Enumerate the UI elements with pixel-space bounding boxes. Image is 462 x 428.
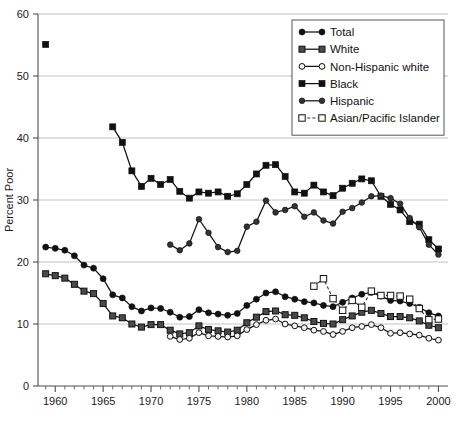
data-point-black-1973: [177, 188, 183, 194]
data-point-hispanic-2000: [436, 252, 442, 258]
data-point-hispanic-1996: [397, 201, 403, 207]
legend-marker-right-3: [319, 81, 325, 87]
legend-marker-left-1: [299, 46, 305, 52]
data-point-white-1967: [119, 315, 125, 321]
data-point-total-1960: [52, 245, 58, 251]
data-point-non-hispanic-white-1978: [225, 334, 231, 340]
data-point-hispanic-1974: [187, 241, 193, 247]
data-point-hispanic-1981: [254, 219, 260, 225]
data-point-black-1971: [158, 182, 164, 188]
x-tick-label-1995: 1995: [378, 395, 402, 407]
y-tick-label-20: 20: [17, 256, 29, 268]
data-point-total-1981: [253, 296, 259, 302]
data-point-total-1966: [110, 292, 116, 298]
data-point-non-hispanic-white-1994: [378, 325, 384, 331]
data-point-black-1995: [388, 201, 394, 207]
data-point-hispanic-1998: [416, 224, 422, 230]
data-point-white-1969: [138, 324, 144, 330]
data-point-total-1986: [301, 299, 307, 305]
data-point-total-1977: [215, 311, 221, 317]
data-point-total-1976: [206, 310, 212, 316]
data-point-white-1984: [282, 312, 288, 318]
data-point-total-1974: [186, 314, 192, 320]
data-point-black-1982: [263, 162, 269, 168]
data-point-hispanic-1982: [263, 198, 269, 204]
data-point-hispanic-1986: [302, 214, 308, 220]
chart-canvas: 196019651970197519801985199019952000 010…: [0, 0, 462, 428]
data-point-white-1961: [62, 275, 68, 281]
data-point-total-1965: [100, 276, 106, 282]
data-point-asian-pacific-islander-1999: [426, 316, 432, 322]
data-point-white-1966: [110, 313, 116, 319]
data-point-white-1998: [416, 318, 422, 324]
data-point-asian-pacific-islander-1988: [320, 276, 326, 282]
data-point-white-1964: [91, 291, 97, 297]
data-point-white-1965: [100, 301, 106, 307]
data-point-asian-pacific-islander-1997: [406, 296, 412, 302]
data-point-total-1985: [292, 296, 298, 302]
data-point-non-hispanic-white-1995: [388, 330, 394, 336]
data-point-white-1994: [378, 310, 384, 316]
data-point-total-1961: [62, 247, 68, 253]
data-point-white-1977: [215, 328, 221, 334]
data-point-white-1971: [158, 322, 164, 328]
legend-marker-right-1: [319, 46, 325, 52]
data-point-asian-pacific-islander-1996: [397, 293, 403, 299]
data-point-non-hispanic-white-1986: [301, 325, 307, 331]
data-point-white-1996: [397, 314, 403, 320]
data-point-black-1989: [330, 193, 336, 199]
legend-marker-right-2: [319, 64, 325, 70]
data-point-hispanic-1999: [426, 242, 432, 248]
data-point-non-hispanic-white-2000: [436, 337, 442, 343]
data-point-non-hispanic-white-1979: [234, 333, 240, 339]
data-point-white-1981: [253, 314, 259, 320]
legend-marker-right-0: [319, 29, 325, 35]
data-point-white-1989: [330, 321, 336, 327]
data-point-white-1982: [263, 309, 269, 315]
data-point-non-hispanic-white-1993: [368, 322, 374, 328]
data-point-total-1959: [43, 244, 49, 250]
x-tick-label-1975: 1975: [187, 395, 211, 407]
data-point-total-1992: [359, 291, 365, 297]
data-point-white-1970: [148, 322, 154, 328]
y-tick-label-40: 40: [17, 132, 29, 144]
data-point-white-1963: [81, 288, 87, 294]
y-tick-label-10: 10: [17, 318, 29, 330]
data-point-black-1976: [206, 190, 212, 196]
data-point-non-hispanic-white-1991: [349, 325, 355, 331]
data-point-white-1960: [52, 273, 58, 279]
legend-label-3: Black: [330, 78, 358, 90]
data-point-white-1985: [292, 312, 298, 318]
data-point-hispanic-1987: [311, 210, 317, 216]
data-point-asian-pacific-islander-2000: [435, 316, 441, 322]
data-point-white-1993: [368, 307, 374, 313]
data-point-total-1979: [234, 310, 240, 316]
data-point-hispanic-1980: [244, 224, 250, 230]
data-point-total-1962: [71, 253, 77, 259]
data-point-total-1967: [119, 295, 125, 301]
data-point-hispanic-1995: [388, 195, 394, 201]
x-tick-label-1965: 1965: [91, 395, 115, 407]
data-point-non-hispanic-white-1988: [321, 329, 327, 335]
data-point-hispanic-1979: [234, 248, 240, 254]
data-point-black-2000: [435, 246, 441, 252]
data-point-non-hispanic-white-1999: [426, 335, 432, 341]
data-point-black-1988: [320, 189, 326, 195]
data-point-white-1959: [43, 271, 49, 277]
data-point-white-1974: [186, 330, 192, 336]
data-point-hispanic-1992: [359, 200, 365, 206]
data-point-hispanic-1973: [177, 247, 183, 253]
data-point-white-1983: [273, 308, 279, 314]
data-point-hispanic-1978: [225, 249, 231, 255]
data-point-non-hispanic-white-1984: [282, 321, 288, 327]
data-point-white-1986: [301, 315, 307, 321]
legend-marker-left-4: [299, 98, 305, 104]
data-point-hispanic-1976: [206, 230, 212, 236]
legend-marker-right-5: [319, 115, 325, 121]
y-axis-title: Percent Poor: [3, 168, 15, 233]
data-point-black-1979: [234, 191, 240, 197]
data-point-black-1968: [129, 168, 135, 174]
poverty-rate-chart: 196019651970197519801985199019952000 010…: [0, 0, 462, 428]
data-point-total-1972: [167, 309, 173, 315]
legend-label-1: White: [330, 43, 359, 55]
